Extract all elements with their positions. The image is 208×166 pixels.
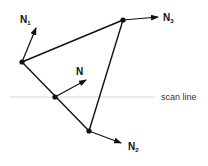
normal-arrows — [22, 17, 158, 143]
label-n3: N3 — [163, 12, 174, 24]
vertex-v2 — [86, 128, 91, 133]
triangle-edges — [22, 20, 123, 131]
label-n2: N2 — [128, 141, 139, 153]
label-n1: N1 — [20, 14, 31, 26]
polygon-normal-diagram: N1 N3 N N2 scan line — [0, 0, 208, 166]
normal-n2-arrow — [89, 131, 121, 143]
normal-n-arrow — [55, 80, 86, 97]
vertex-v3 — [120, 17, 125, 22]
label-n: N — [76, 66, 83, 77]
vertex-v1 — [19, 59, 24, 64]
scan-line-label: scan line — [161, 92, 197, 102]
scanline-point — [52, 94, 57, 99]
normal-n3-arrow — [123, 17, 158, 20]
